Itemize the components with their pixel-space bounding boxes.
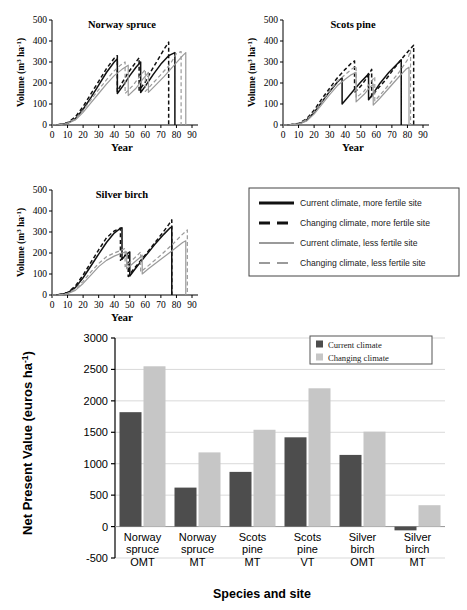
legend-item-label: Changing climate, more fertile site	[300, 218, 430, 228]
category-label: birch	[351, 543, 375, 555]
category-label: spruce	[126, 543, 159, 555]
category-label: Norway	[179, 531, 217, 543]
category-label: Silver	[404, 531, 432, 543]
legend-swatch	[316, 354, 323, 361]
category-label: MT	[190, 556, 206, 568]
panel-title: Norway spruce	[88, 19, 156, 30]
bar[interactable]	[175, 488, 197, 527]
y-tick-label: 500	[33, 185, 48, 195]
y-tick-label: 100	[33, 269, 48, 279]
x-axis-label: Year	[342, 141, 364, 153]
x-tick-label: 50	[125, 130, 135, 140]
x-tick-label: 0	[50, 300, 55, 310]
x-axis-label: Species and site	[213, 587, 311, 601]
x-axis-label: Year	[111, 311, 133, 323]
legend-item-label: Current climate, less fertile site	[300, 238, 418, 248]
bar[interactable]	[144, 366, 166, 526]
x-axis-label: Year	[111, 141, 133, 153]
y-tick-label: 400	[33, 206, 48, 216]
category-label: MT	[410, 556, 426, 568]
y-tick-label: 0	[273, 120, 278, 130]
figure-svg: 01002003004005000102030405060708090Norwa…	[0, 0, 467, 610]
x-tick-label: 10	[294, 130, 304, 140]
figure-container: 01002003004005000102030405060708090Norwa…	[0, 0, 467, 610]
x-tick-label: 40	[109, 300, 119, 310]
bar[interactable]	[230, 472, 252, 527]
x-tick-label: 10	[63, 300, 73, 310]
y-tick-label: -500	[86, 552, 108, 564]
legend-swatch	[316, 341, 323, 348]
x-tick-label: 70	[387, 130, 397, 140]
bar[interactable]	[199, 452, 221, 526]
category-label: MT	[245, 556, 261, 568]
legend-item-label: Current climate	[328, 340, 382, 350]
y-tick-label: 200	[33, 78, 48, 88]
bar[interactable]	[419, 505, 441, 526]
y-axis-label: Volume (m3 ha-1)	[15, 208, 28, 277]
x-tick-label: 90	[418, 130, 428, 140]
y-tick-label: 500	[33, 15, 48, 25]
y-tick-label: 500	[90, 489, 108, 501]
x-tick-label: 30	[94, 130, 104, 140]
x-tick-label: 20	[78, 300, 88, 310]
x-tick-label: 50	[125, 300, 135, 310]
y-tick-label: 0	[42, 120, 47, 130]
y-tick-label: 400	[33, 36, 48, 46]
y-tick-label: 300	[33, 227, 48, 237]
bar[interactable]	[254, 430, 276, 527]
x-tick-label: 30	[94, 300, 104, 310]
bar-chart-legend: Current climateChanging climate	[310, 336, 432, 364]
y-tick-label: 100	[33, 99, 48, 109]
x-tick-label: 60	[141, 130, 151, 140]
category-label: pine	[297, 543, 318, 555]
x-tick-label: 20	[309, 130, 319, 140]
y-tick-label: 2000	[84, 395, 108, 407]
x-tick-label: 10	[63, 130, 73, 140]
y-tick-label: 500	[264, 15, 279, 25]
x-tick-label: 0	[50, 130, 55, 140]
panel-title: Scots pine	[330, 19, 376, 30]
category-label: OMT	[130, 556, 155, 568]
y-axis-label: Net Present Value (euros ha-1)	[20, 351, 35, 535]
bar[interactable]	[364, 432, 386, 527]
x-tick-label: 30	[325, 130, 335, 140]
x-tick-label: 80	[172, 300, 182, 310]
y-tick-label: 200	[33, 248, 48, 258]
x-tick-label: 0	[281, 130, 286, 140]
x-tick-label: 90	[187, 130, 197, 140]
y-tick-label: 100	[264, 99, 279, 109]
x-tick-label: 90	[187, 300, 197, 310]
y-tick-label: 2500	[84, 363, 108, 375]
y-tick-label: 1500	[84, 426, 108, 438]
category-label: pine	[242, 543, 263, 555]
bar[interactable]	[120, 412, 142, 526]
category-label: Silver	[349, 531, 377, 543]
y-tick-label: 0	[102, 521, 108, 533]
x-tick-label: 40	[340, 130, 350, 140]
y-tick-label: 3000	[84, 332, 108, 344]
x-tick-label: 20	[78, 130, 88, 140]
category-label: OMT	[350, 556, 375, 568]
x-tick-label: 70	[156, 300, 166, 310]
legend-item-label: Changing climate, less fertile site	[300, 258, 426, 268]
category-label: spruce	[181, 543, 214, 555]
bar[interactable]	[340, 455, 362, 527]
bar[interactable]	[309, 388, 331, 526]
category-label: birch	[406, 543, 430, 555]
legend-item-label: Current climate, more fertile site	[300, 198, 422, 208]
y-axis-label: Volume (m3 ha-1)	[246, 38, 259, 107]
line-chart-legend: Current climate, more fertile siteChangi…	[249, 188, 459, 276]
panel-title: Silver birch	[96, 189, 149, 200]
x-tick-label: 80	[403, 130, 413, 140]
x-tick-label: 80	[172, 130, 182, 140]
x-tick-label: 70	[156, 130, 166, 140]
y-tick-label: 400	[264, 36, 279, 46]
y-tick-label: 0	[42, 290, 47, 300]
category-label: Scots	[239, 531, 267, 543]
category-label: Scots	[294, 531, 322, 543]
x-tick-label: 50	[356, 130, 366, 140]
y-tick-label: 1000	[84, 458, 108, 470]
x-tick-label: 40	[109, 130, 119, 140]
category-label: VT	[300, 556, 314, 568]
bar[interactable]	[285, 437, 307, 526]
